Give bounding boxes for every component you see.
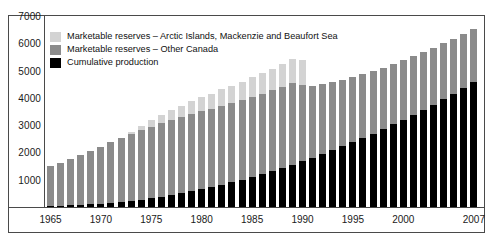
- bar-segment-prod: [228, 182, 235, 207]
- bar-segment-other: [67, 159, 74, 205]
- bar-segment-prod: [349, 142, 356, 207]
- bar-segment-other: [309, 86, 316, 158]
- bar: [309, 86, 316, 207]
- bar: [87, 151, 94, 207]
- x-axis-tick-label: 1990: [291, 214, 313, 225]
- bar: [269, 69, 276, 207]
- x-axis-tick-label: 2000: [392, 214, 414, 225]
- chart-figure: 1000200030004000500060007000 19651970197…: [0, 0, 493, 247]
- bar-segment-prod: [198, 189, 205, 207]
- bar: [138, 126, 145, 207]
- other-canada-swatch: [50, 45, 61, 55]
- bar: [349, 77, 356, 207]
- bar-segment-prod: [309, 158, 316, 207]
- x-axis-tick-label: 1970: [90, 214, 112, 225]
- bar: [178, 106, 185, 207]
- legend-item: Marketable reserves – Arctic Islands, Ma…: [50, 31, 338, 42]
- bar: [279, 64, 286, 207]
- y-axis-tick-label: 4000: [18, 92, 41, 103]
- bar-segment-prod: [359, 138, 366, 207]
- bar-segment-prod: [168, 195, 175, 207]
- x-axis-tick-label: 1995: [342, 214, 364, 225]
- bar-segment-other: [138, 130, 145, 200]
- bar-segment-arctic: [218, 89, 225, 105]
- bar-segment-arctic: [239, 82, 246, 101]
- bar-segment-prod: [249, 177, 256, 207]
- bar-segment-prod: [329, 150, 336, 207]
- bar: [148, 120, 155, 207]
- chart-legend: Marketable reserves – Arctic Islands, Ma…: [50, 31, 338, 70]
- bar: [47, 166, 54, 207]
- bar-segment-other: [118, 138, 125, 202]
- bar-segment-other: [359, 74, 366, 138]
- bar-segment-prod: [259, 174, 266, 207]
- bar-segment-prod: [410, 115, 417, 207]
- bar: [208, 94, 215, 207]
- bar: [128, 132, 135, 207]
- bar-segment-other: [390, 64, 397, 124]
- bar-segment-other: [188, 114, 195, 191]
- bar-segment-prod: [239, 180, 246, 207]
- bar-segment-other: [370, 71, 377, 133]
- y-axis-labels: 1000200030004000500060007000: [8, 15, 44, 207]
- bar-segment-prod: [118, 202, 125, 207]
- bar-segment-other: [158, 123, 165, 197]
- x-axis-tick-label: 1965: [39, 214, 61, 225]
- bar-segment-other: [77, 155, 84, 205]
- bar-segment-arctic: [228, 86, 235, 103]
- bar-segment-other: [279, 87, 286, 168]
- y-axis-tick-label: 2000: [18, 147, 41, 158]
- bar-segment-other: [87, 151, 94, 204]
- bar: [470, 29, 477, 207]
- bar-segment-other: [460, 34, 467, 88]
- bar-segment-other: [249, 97, 256, 177]
- bar-segment-other: [319, 84, 326, 154]
- y-axis-tick-label: 5000: [18, 65, 41, 76]
- bar: [450, 39, 457, 207]
- bar-segment-arctic: [259, 73, 266, 94]
- bar-segment-prod: [460, 88, 467, 207]
- bar: [168, 110, 175, 207]
- bar-segment-prod: [430, 105, 437, 207]
- legend-item: Marketable reserves – Other Canada: [50, 44, 338, 55]
- bar-segment-prod: [289, 165, 296, 207]
- bar-segment-prod: [370, 134, 377, 207]
- bar: [77, 155, 84, 207]
- y-axis-tick-label: 6000: [18, 38, 41, 49]
- legend-item-label: Marketable reserves – Arctic Islands, Ma…: [67, 32, 338, 41]
- bar-segment-other: [470, 29, 477, 82]
- bar: [107, 142, 114, 207]
- bar-segment-prod: [107, 203, 114, 207]
- bar: [158, 115, 165, 207]
- y-axis-tick-label: 7000: [18, 11, 41, 22]
- bar-segment-other: [289, 83, 296, 164]
- bar: [188, 101, 195, 207]
- bar-segment-other: [97, 147, 104, 204]
- bar-segment-other: [339, 80, 346, 146]
- bar-segment-other: [299, 85, 306, 161]
- bar-segment-other: [57, 163, 64, 205]
- bar-segment-prod: [57, 206, 64, 207]
- bar-segment-prod: [380, 129, 387, 207]
- bar: [259, 73, 266, 207]
- bar: [228, 86, 235, 207]
- bar-segment-other: [128, 134, 135, 200]
- bar: [390, 64, 397, 207]
- bar-segment-other: [239, 100, 246, 180]
- bar: [380, 68, 387, 207]
- bar-segment-prod: [450, 94, 457, 207]
- bar-segment-other: [329, 82, 336, 150]
- bar-segment-prod: [148, 198, 155, 207]
- y-axis-tick-label: 3000: [18, 120, 41, 131]
- bar-segment-prod: [470, 82, 477, 207]
- cumulative-production-swatch: [50, 58, 61, 68]
- bar: [460, 34, 467, 207]
- bar-segment-other: [430, 48, 437, 105]
- y-axis-tick-label: 1000: [18, 174, 41, 185]
- bar-segment-other: [349, 77, 356, 142]
- bar-segment-prod: [299, 161, 306, 207]
- bar: [420, 52, 427, 207]
- bar: [118, 138, 125, 207]
- bar-segment-other: [107, 142, 114, 203]
- bar: [289, 59, 296, 207]
